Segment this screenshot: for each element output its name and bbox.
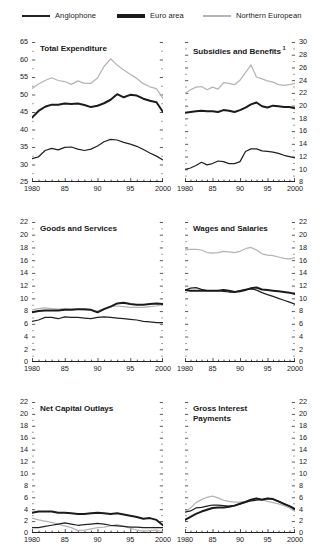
figure-panel-grid: Anglophone Euro area Northern European T… <box>0 0 332 551</box>
y-tick-label: 14 <box>299 446 319 453</box>
legend-item-euro-area: Euro area <box>117 8 184 24</box>
legend-line-euro-area-icon <box>117 14 145 17</box>
y-tick-label: 14 <box>6 269 28 276</box>
y-tick-label: 12 <box>299 282 319 289</box>
x-tick-label: 1980 <box>171 365 199 372</box>
x-tick-label: 90 <box>84 185 112 192</box>
x-tick-label: 85 <box>51 185 79 192</box>
panel-footnote-marker: 1 <box>281 45 286 51</box>
series-line-anglophone <box>32 523 163 528</box>
y-tick-label: 60 <box>6 56 28 63</box>
y-tick-label: 50 <box>6 91 28 98</box>
chart-panel-4: Wages and Salaries0246810121416182022198… <box>185 222 295 362</box>
series-line-northern_european <box>32 59 163 99</box>
y-tick-label: 4 <box>6 333 28 340</box>
x-tick-label: 90 <box>84 536 112 543</box>
y-tick-label: 2 <box>6 346 28 353</box>
y-tick-label: 16 <box>6 434 28 441</box>
y-tick-label: 4 <box>299 506 319 513</box>
y-tick-label: 10 <box>6 470 28 477</box>
x-tick-label: 95 <box>254 185 282 192</box>
legend-line-northern-european-icon <box>203 15 231 17</box>
y-tick-label: 12 <box>299 458 319 465</box>
panel-title-2: Subsidies and Benefits 1 <box>193 44 286 56</box>
legend-line-anglophone-icon <box>22 15 50 17</box>
x-tick-label: 95 <box>254 536 282 543</box>
series-line-euro_area <box>185 102 295 112</box>
y-tick-label: 65 <box>6 38 28 45</box>
x-tick-label: 90 <box>226 536 254 543</box>
x-tick-label: 1980 <box>18 185 46 192</box>
y-tick-label: 14 <box>299 140 319 147</box>
panel-title-1: Total Expenditure <box>40 44 107 54</box>
x-tick-label: 1980 <box>171 185 199 192</box>
y-tick-label: 4 <box>6 506 28 513</box>
series-line-euro_area <box>185 288 295 294</box>
panel-title-3: Goods and Services <box>40 224 117 234</box>
chart-panel-3: Goods and Services0246810121416182022198… <box>32 222 163 362</box>
y-tick-label: 18 <box>6 244 28 251</box>
legend-label-northern-european: Northern European <box>236 12 301 20</box>
y-tick-label: 8 <box>6 307 28 314</box>
y-tick-label: 20 <box>299 231 319 238</box>
y-tick-label: 16 <box>6 257 28 264</box>
y-tick-label: 10 <box>299 295 319 302</box>
series-line-anglophone <box>32 317 163 323</box>
x-tick-label: 1980 <box>18 365 46 372</box>
x-tick-label: 95 <box>116 536 144 543</box>
y-tick-label: 30 <box>6 161 28 168</box>
x-tick-label: 85 <box>199 536 227 543</box>
series-line-northern_european <box>185 65 295 94</box>
y-tick-label: 30 <box>299 38 319 45</box>
figure-legend: Anglophone Euro area Northern European <box>0 8 332 26</box>
y-tick-label: 22 <box>6 218 28 225</box>
series-line-anglophone <box>32 139 163 160</box>
x-tick-label: 2000 <box>281 536 309 543</box>
x-tick-label: 90 <box>226 185 254 192</box>
y-tick-label: 8 <box>6 482 28 489</box>
chart-panel-6: Gross Interest Payments02468101214161820… <box>185 402 295 533</box>
y-tick-label: 12 <box>6 458 28 465</box>
x-tick-label: 85 <box>199 185 227 192</box>
panel-title-4: Wages and Salaries <box>193 224 268 234</box>
x-tick-label: 95 <box>116 365 144 372</box>
y-tick-label: 20 <box>299 102 319 109</box>
y-tick-label: 14 <box>299 269 319 276</box>
x-tick-label: 2000 <box>281 185 309 192</box>
y-tick-label: 10 <box>6 295 28 302</box>
chart-panel-5: Net Capital Outlays024681012141618202219… <box>32 402 163 533</box>
y-tick-label: 2 <box>299 346 319 353</box>
x-tick-label: 90 <box>226 365 254 372</box>
x-tick-label: 85 <box>51 536 79 543</box>
y-tick-label: 20 <box>299 410 319 417</box>
x-tick-label: 2000 <box>281 365 309 372</box>
x-tick-label: 1980 <box>171 536 199 543</box>
chart-panel-2: Subsidies and Benefits 18101214161820222… <box>185 42 295 182</box>
y-tick-label: 8 <box>299 482 319 489</box>
series-line-euro_area <box>32 94 163 117</box>
y-tick-label: 22 <box>6 398 28 405</box>
legend-label-anglophone: Anglophone <box>55 12 96 20</box>
y-tick-label: 22 <box>299 218 319 225</box>
y-tick-label: 16 <box>299 257 319 264</box>
y-tick-label: 6 <box>299 320 319 327</box>
y-tick-label: 16 <box>299 434 319 441</box>
y-tick-label: 14 <box>6 446 28 453</box>
y-tick-label: 24 <box>299 77 319 84</box>
y-tick-label: 40 <box>6 126 28 133</box>
panel-title-6: Gross Interest Payments <box>193 404 247 423</box>
series-line-northern_european <box>185 247 295 258</box>
y-tick-label: 2 <box>299 517 319 524</box>
x-tick-label: 90 <box>84 365 112 372</box>
x-tick-label: 95 <box>116 185 144 192</box>
x-tick-label: 85 <box>51 365 79 372</box>
y-tick-label: 18 <box>299 244 319 251</box>
y-tick-label: 6 <box>299 494 319 501</box>
x-tick-label: 95 <box>254 365 282 372</box>
legend-label-euro-area: Euro area <box>150 12 184 20</box>
series-line-anglophone <box>185 149 295 169</box>
y-tick-label: 6 <box>6 494 28 501</box>
legend-item-anglophone: Anglophone <box>22 8 96 24</box>
y-tick-label: 55 <box>6 73 28 80</box>
y-tick-label: 2 <box>6 517 28 524</box>
